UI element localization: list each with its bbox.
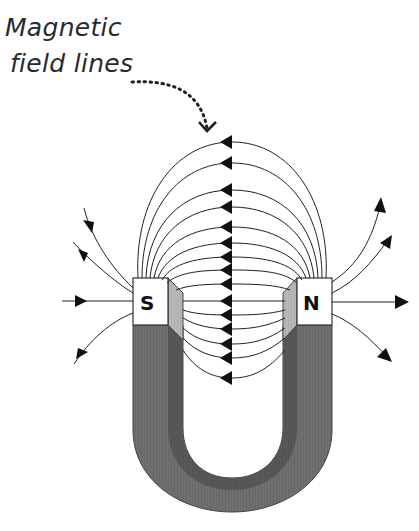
center-arrowheads: [220, 135, 232, 385]
outer-arrowheads-right: [374, 197, 409, 362]
south-pole-label: S: [140, 291, 154, 315]
outer-field-lines-left: [62, 208, 133, 364]
outer-field-lines-right: [332, 206, 405, 358]
leader-arrow: [132, 82, 216, 131]
outer-arrowheads-left: [75, 220, 94, 359]
north-pole-label: N: [303, 291, 320, 315]
horseshoe-magnet-diagram: S N: [0, 0, 419, 531]
magnet-body: [133, 325, 332, 512]
